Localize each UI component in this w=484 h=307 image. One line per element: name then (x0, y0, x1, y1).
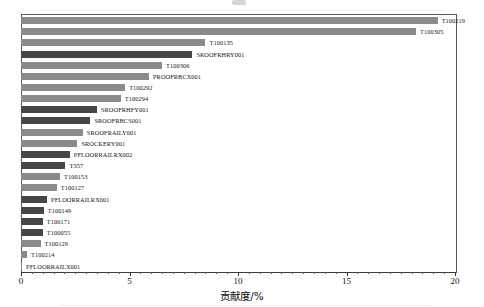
bar (21, 173, 60, 180)
x-tick-minor (249, 272, 250, 274)
x-tick-label: 0 (19, 276, 24, 286)
x-tick-minor (227, 272, 228, 274)
bar-label: T100214 (31, 251, 54, 258)
bar-label: PFLOORRAILRX002 (74, 151, 133, 158)
bar-row: T100149 (21, 205, 455, 216)
bar-row: PFLOORRAILX001 (21, 260, 455, 271)
bar (21, 129, 83, 136)
x-tick-minor (119, 272, 120, 274)
x-tick-minor (64, 272, 65, 274)
x-tick-minor (54, 272, 55, 274)
scan-artifact-bottom-line (60, 305, 430, 306)
bar (21, 240, 41, 247)
bar (21, 84, 125, 91)
x-tick-minor (216, 272, 217, 274)
bar-label: T100135 (209, 39, 232, 46)
bar-label: T100127 (61, 184, 84, 191)
bar-row: T100219 (21, 15, 455, 26)
bar (21, 184, 57, 191)
x-tick-minor (108, 272, 109, 274)
x-tick-minor (205, 272, 206, 274)
x-tick-minor (140, 272, 141, 274)
bar-label: SROOFRAILY001 (87, 129, 137, 136)
bar (21, 218, 43, 225)
bar (21, 73, 149, 80)
bar (21, 17, 438, 24)
bar-label: T100294 (125, 95, 148, 102)
bar (21, 140, 77, 147)
x-tick-minor (32, 272, 33, 274)
x-tick-label: 5 (127, 276, 132, 286)
x-tick-minor (292, 272, 293, 274)
bar-label: T100219 (442, 17, 465, 24)
bar-row: T100305 (21, 26, 455, 37)
bar-row: T100127 (21, 182, 455, 193)
bar (21, 95, 121, 102)
x-tick-minor (184, 272, 185, 274)
bar-row: PFLOORRAILRX002 (21, 149, 455, 160)
bar-row: T100135 (21, 37, 455, 48)
bar-label: SROOFRHRY001 (196, 51, 244, 58)
bar (21, 39, 205, 46)
x-tick-minor (173, 272, 174, 274)
bar-label: T100306 (166, 62, 189, 69)
x-tick-minor (368, 272, 369, 274)
bar-row: T357 (21, 160, 455, 171)
x-tick-minor (444, 272, 445, 274)
x-tick-minor (412, 272, 413, 274)
x-tick-minor (303, 272, 304, 274)
x-tick-label: 10 (234, 276, 243, 286)
bar-row: SROOFRHFY001 (21, 104, 455, 115)
bar-chart: T100219T100305T100135SROOFRHRY001T100306… (0, 0, 484, 307)
bar (21, 151, 70, 158)
x-tick-minor (325, 272, 326, 274)
x-tick-minor (379, 272, 380, 274)
bar (21, 62, 162, 69)
scan-artifact-smudge (232, 0, 246, 5)
bar-row: SROOFRAILY001 (21, 127, 455, 138)
bar-row: T100129 (21, 238, 455, 249)
bar-label: T100055 (47, 229, 70, 236)
bar-row: SROCKERY001 (21, 138, 455, 149)
x-tick-minor (86, 272, 87, 274)
x-tick-minor (390, 272, 391, 274)
bar-label: T100153 (64, 173, 87, 180)
bar-label: PROOFRBCX001 (153, 73, 201, 80)
x-tick-minor (75, 272, 76, 274)
x-tick-minor (151, 272, 152, 274)
bar (21, 162, 65, 169)
bar-row: T100214 (21, 249, 455, 260)
bar-label: SROOFRHFY001 (101, 106, 149, 113)
x-tick-label: 20 (451, 276, 460, 286)
x-tick-minor (422, 272, 423, 274)
x-tick-minor (336, 272, 337, 274)
bar (21, 196, 47, 203)
bar-label: T100129 (45, 240, 68, 247)
x-tick-minor (260, 272, 261, 274)
x-tick-minor (195, 272, 196, 274)
x-tick-minor (401, 272, 402, 274)
bar-row: SROOFRBCS001 (21, 115, 455, 126)
bar-row: T100306 (21, 60, 455, 71)
bar-label: T100171 (47, 218, 70, 225)
bar (21, 51, 192, 58)
x-tick-minor (162, 272, 163, 274)
x-axis-title: 贡献度/% (0, 288, 484, 303)
bar (21, 117, 90, 124)
x-tick-minor (281, 272, 282, 274)
bar-label: T357 (69, 162, 83, 169)
bar (21, 106, 97, 113)
x-tick-minor (271, 272, 272, 274)
scan-artifact-line (40, 10, 444, 11)
bar-row: SROOFRHRY001 (21, 48, 455, 59)
bar-label: SROCKERY001 (81, 140, 125, 147)
bar (21, 229, 43, 236)
bar (21, 251, 27, 258)
bar-label: SROOFRBCS001 (94, 117, 141, 124)
x-tick-minor (43, 272, 44, 274)
bar-row: T100292 (21, 82, 455, 93)
bar (21, 28, 416, 35)
bar-label: T100292 (129, 84, 152, 91)
bar-row: PFLOORRAILRX001 (21, 194, 455, 205)
bar-label: T100305 (420, 28, 443, 35)
